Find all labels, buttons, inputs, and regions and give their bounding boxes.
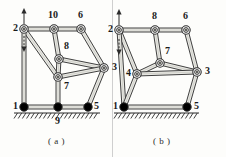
node-label-a-5: 5 — [94, 100, 99, 111]
ground-hatch-a — [18, 113, 22, 119]
ground-hatch-a — [85, 113, 89, 119]
node-label-b-7: 7 — [165, 45, 170, 56]
ground-hatch-a — [94, 113, 98, 119]
pivot-joint-center-7 — [159, 62, 161, 64]
caption-a: ( a ) — [48, 136, 65, 146]
pivot-joint-center-2 — [23, 28, 25, 30]
arrow-up-head-b — [116, 9, 121, 15]
ground-hatch-b — [148, 113, 152, 119]
ground-hatch-b — [143, 113, 147, 119]
link-centerline-7-3 — [58, 68, 104, 77]
pivot-joint-center-8 — [154, 29, 156, 31]
node-label-b-1: 1 — [113, 100, 118, 111]
ground-hatch-a — [77, 113, 81, 119]
pivot-joint-center-4 — [136, 73, 138, 75]
node-label-b-2: 2 — [108, 23, 113, 34]
ground-hatch-b — [185, 113, 189, 119]
node-label-b-6: 6 — [183, 10, 188, 21]
ground-hatch-a — [90, 113, 94, 119]
ground-hatch-a — [35, 113, 39, 119]
ground-hatch-a — [39, 113, 43, 119]
ground-hatch-a — [73, 113, 77, 119]
pivot-joint-center-3 — [196, 71, 198, 73]
node-label-b-8: 8 — [152, 10, 157, 21]
ground-hatch-b — [164, 113, 168, 119]
ground-hatch-b — [122, 113, 126, 119]
ground-supports-layer — [14, 113, 199, 119]
ground-hatch-a — [22, 113, 26, 119]
ground-hatch-b — [118, 113, 122, 119]
ground-hatch-b — [152, 113, 156, 119]
ground-hatch-b — [139, 113, 143, 119]
ground-hatch-a — [27, 113, 31, 119]
node-label-a-7: 7 — [64, 80, 69, 91]
ground-hatch-b — [114, 113, 118, 119]
arrow-up-head-a — [21, 8, 26, 14]
ground-hatch-a — [48, 113, 52, 119]
node-label-b-5: 5 — [194, 100, 199, 111]
link-centerline-6-3 — [186, 30, 197, 72]
ground-hatch-a — [14, 113, 18, 119]
ground-hatch-a — [69, 113, 73, 119]
node-label-a-8: 8 — [64, 40, 69, 51]
pivot-joint-center-3 — [103, 67, 105, 69]
pivot-joint-center-6 — [185, 29, 187, 31]
ground-hatch-b — [181, 113, 185, 119]
ground-hatch-b — [156, 113, 160, 119]
ground-hatch-b — [169, 113, 173, 119]
link-centerline-4-1 — [124, 74, 137, 107]
caption-b: ( b ) — [153, 136, 171, 146]
ground-hatch-a — [81, 113, 85, 119]
pivot-joint-center-8 — [58, 58, 60, 60]
node-label-a-9: 9 — [55, 115, 60, 126]
ground-hatch-b — [131, 113, 135, 119]
ground-hatch-b — [127, 113, 131, 119]
pivot-joint-center-10 — [53, 28, 55, 30]
ground-hatch-b — [173, 113, 177, 119]
ground-joint-5 — [183, 103, 191, 111]
node-label-a-3: 3 — [112, 61, 117, 72]
ground-joint-1 — [120, 103, 128, 111]
ground-hatch-b — [190, 113, 194, 119]
ground-hatch-b — [135, 113, 139, 119]
ground-joint-5 — [84, 103, 92, 111]
ground-hatch-a — [60, 113, 64, 119]
node-label-b-4: 4 — [126, 67, 131, 78]
ground-hatch-a — [64, 113, 68, 119]
node-label-a-1: 1 — [13, 100, 18, 111]
node-label-a-6: 6 — [78, 9, 83, 20]
ground-hatch-a — [31, 113, 35, 119]
node-label-a-10: 10 — [48, 9, 58, 20]
links-layer — [22, 27, 199, 109]
ground-hatch-a — [43, 113, 47, 119]
ground-joint-1 — [20, 103, 28, 111]
node-label-b-3: 3 — [205, 65, 210, 76]
pivot-joint-center-7 — [57, 76, 59, 78]
figure-container: 210687319528674315 ( a ) ( b ) — [0, 0, 226, 157]
ground-hatch-b — [160, 113, 164, 119]
linkage-mechanism-figure — [0, 0, 226, 157]
ground-joint-9 — [54, 103, 62, 111]
pivot-joint-center-6 — [80, 28, 82, 30]
ground-hatch-b — [177, 113, 181, 119]
ground-hatch-b — [194, 113, 198, 119]
pivot-joint-center-2 — [118, 29, 120, 31]
node-label-a-2: 2 — [13, 22, 18, 33]
